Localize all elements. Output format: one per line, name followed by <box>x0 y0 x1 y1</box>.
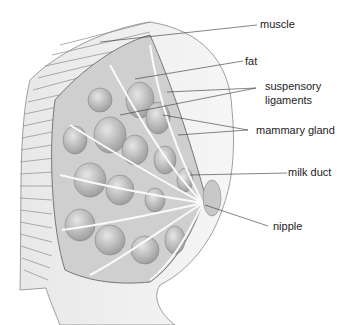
breast-anatomy-diagram: muscle fat suspensory ligaments mammary … <box>0 0 344 325</box>
label-suspensory: suspensory <box>265 80 321 92</box>
areola <box>203 180 221 216</box>
label-muscle: muscle <box>260 18 295 30</box>
label-nipple: nipple <box>273 220 302 232</box>
anatomy-illustration <box>0 0 344 325</box>
label-ligaments: ligaments <box>265 94 312 106</box>
label-mammary-gland: mammary gland <box>256 124 335 136</box>
label-milk-duct: milk duct <box>288 166 331 178</box>
label-fat: fat <box>245 55 257 67</box>
